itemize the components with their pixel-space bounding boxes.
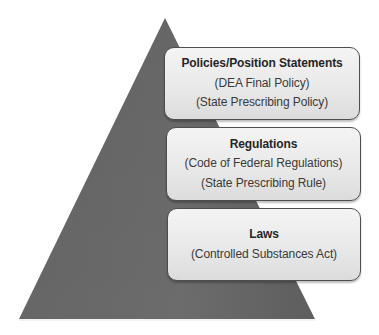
tier-policies-line-1: (DEA Final Policy) (215, 74, 310, 94)
tier-policies-title: Policies/Position Statements (181, 54, 342, 74)
tier-policies-box: Policies/Position Statements (DEA Final … (164, 47, 360, 120)
tier-laws-title: Laws (249, 225, 279, 245)
tier-regulations-box: Regulations (Code of Federal Regulations… (166, 127, 361, 201)
tier-laws-box: Laws (Controlled Substances Act) (167, 208, 361, 281)
tier-regulations-line-2: (State Prescribing Rule) (201, 174, 326, 194)
tier-policies-line-2: (State Prescribing Policy) (196, 93, 328, 113)
tier-regulations-line-1: (Code of Federal Regulations) (185, 154, 343, 174)
tier-regulations-title: Regulations (230, 135, 298, 155)
tier-laws-line-1: (Controlled Substances Act) (191, 245, 337, 265)
